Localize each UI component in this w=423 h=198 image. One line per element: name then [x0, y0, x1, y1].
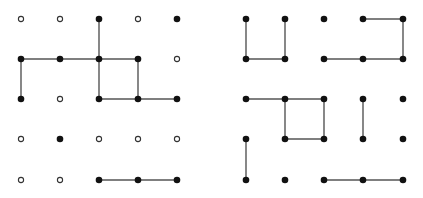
dot-grid-diagram [0, 0, 423, 198]
filled-dot [57, 56, 64, 63]
filled-dot [400, 177, 407, 184]
filled-dot [243, 56, 250, 63]
hollow-dot [135, 136, 140, 141]
filled-dot [57, 136, 64, 143]
filled-dot [96, 96, 103, 103]
filled-dot [174, 96, 181, 103]
filled-dot [282, 177, 289, 184]
filled-dot [282, 56, 289, 63]
filled-dot [321, 16, 328, 23]
filled-dot [243, 96, 250, 103]
hollow-dot [18, 16, 23, 21]
filled-dot [400, 16, 407, 23]
filled-dot [282, 136, 289, 143]
hollow-dot [18, 177, 23, 182]
filled-dot [400, 96, 407, 103]
filled-dot [18, 56, 25, 63]
filled-dot [96, 56, 103, 63]
filled-dot [282, 96, 289, 103]
left-grid-panel [18, 16, 181, 184]
hollow-dot [57, 96, 62, 101]
filled-dot [243, 16, 250, 23]
filled-dot [321, 136, 328, 143]
filled-dot [243, 177, 250, 184]
filled-dot [18, 96, 25, 103]
filled-dot [400, 56, 407, 63]
hollow-dot [57, 16, 62, 21]
filled-dot [360, 136, 367, 143]
filled-dot [321, 96, 328, 103]
hollow-dot [57, 177, 62, 182]
filled-dot [360, 177, 367, 184]
filled-dot [360, 96, 367, 103]
filled-dot [321, 56, 328, 63]
filled-dot [135, 177, 142, 184]
right-grid-panel [243, 16, 407, 184]
filled-dot [282, 16, 289, 23]
hollow-dot [135, 16, 140, 21]
filled-dot [135, 96, 142, 103]
filled-dot [96, 16, 103, 23]
filled-dot [96, 177, 103, 184]
hollow-dot [96, 136, 101, 141]
filled-dot [135, 56, 142, 63]
hollow-dot [18, 136, 23, 141]
hollow-dot [174, 136, 179, 141]
filled-dot [174, 16, 181, 23]
filled-dot [360, 16, 367, 23]
filled-dot [360, 56, 367, 63]
filled-dot [174, 177, 181, 184]
filled-dot [321, 177, 328, 184]
filled-dot [243, 136, 250, 143]
hollow-dot [174, 56, 179, 61]
filled-dot [400, 136, 407, 143]
